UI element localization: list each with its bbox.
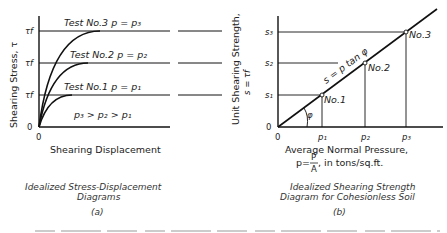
- panel-b: φ No.1 No.2 No.3 s = p tan φ s₁ s₂ s₃ 0 …: [230, 9, 443, 217]
- s3-tick: s₃: [265, 27, 273, 37]
- panel-a: τf τf τf 0 0 Test No.3 p = p₃ Test No.2 …: [8, 16, 222, 217]
- p-formula-denominator: A: [311, 164, 317, 174]
- panel-a-y-label: Shearing Stress, τ: [8, 41, 19, 128]
- s1-tick: s₁: [265, 90, 273, 100]
- point-no-3: [404, 30, 408, 34]
- p-formula-numerator: P: [311, 152, 316, 162]
- strength-line: [278, 9, 437, 127]
- panel-b-x-label-1: Average Normal Pressure,: [285, 144, 408, 155]
- tau-tick-3: τf: [25, 26, 35, 36]
- panel-b-y-label-1: Unit Shearing Strength,: [230, 13, 241, 125]
- tau-tick-1: τf: [25, 90, 35, 100]
- panel-b-caption-2: Diagram for Cohesionless Soil: [280, 192, 415, 202]
- tau-tick-2: τf: [25, 58, 35, 68]
- p1-tick: p₁: [317, 132, 327, 142]
- pressure-relation: p₃ > p₂ > p₁: [73, 109, 132, 120]
- panel-b-origin-x: 0: [275, 132, 280, 142]
- label-no-1: No.1: [324, 94, 346, 105]
- label-test-3: Test No.3 p = p₃: [64, 17, 141, 28]
- p2-tick: p₂: [360, 132, 370, 142]
- strength-line-label: s = p tan φ: [321, 45, 371, 86]
- panel-b-origin-y: 0: [266, 122, 271, 132]
- label-no-3: No.3: [409, 29, 431, 40]
- label-test-1: Test No.1 p = p₁: [64, 81, 141, 92]
- s2-tick: s₂: [265, 58, 273, 68]
- label-test-2: Test No.2 p = p₂: [70, 49, 147, 60]
- panel-b-tag: (b): [333, 207, 346, 217]
- angle-label: φ: [307, 110, 313, 120]
- p3-tick: p₃: [401, 132, 411, 142]
- panel-b-y-label-2: s = τf: [242, 68, 252, 95]
- origin-x-label: 0: [36, 132, 41, 142]
- p-formula-rest: , in tons/sq.ft.: [318, 157, 383, 168]
- panel-a-caption-2: Diagrams: [77, 192, 121, 202]
- figure: τf τf τf 0 0 Test No.3 p = p₃ Test No.2 …: [0, 0, 447, 233]
- panel-a-x-label: Shearing Displacement: [50, 144, 161, 155]
- point-no-2: [363, 61, 367, 65]
- origin-y-label: 0: [27, 122, 32, 132]
- panel-b-caption-1: Idealized Shearing Strength: [290, 182, 416, 192]
- p-formula-prefix: p=: [296, 157, 310, 168]
- label-no-2: No.2: [368, 62, 390, 73]
- panel-a-caption-1: Idealized Stress-Displacement: [25, 182, 162, 192]
- panel-a-tag: (a): [91, 207, 104, 217]
